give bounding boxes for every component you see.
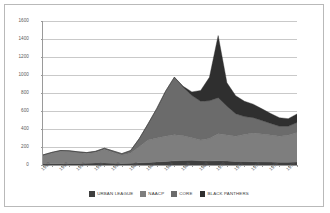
x-tick-mark bbox=[87, 165, 88, 167]
y-tick-label: 1600 bbox=[0, 19, 29, 24]
x-tick-mark bbox=[52, 165, 53, 167]
x-tick-mark bbox=[244, 165, 245, 167]
x-tick-mark bbox=[139, 165, 140, 167]
legend-swatch-icon bbox=[89, 191, 95, 197]
y-tick-label: 0 bbox=[0, 163, 29, 168]
x-tick-mark bbox=[174, 165, 175, 167]
legend-swatch-icon bbox=[140, 191, 146, 197]
x-tick-mark bbox=[227, 165, 228, 167]
x-tick-mark bbox=[157, 165, 158, 167]
x-tick-mark bbox=[122, 165, 123, 167]
plot-area bbox=[42, 21, 297, 166]
chart-legend: URBAN LEAGUENAACPCOREBLACK PANTHERS bbox=[42, 189, 296, 199]
y-tick-label: 800 bbox=[0, 91, 29, 96]
legend-label: NAACP bbox=[148, 192, 164, 196]
x-tick-mark bbox=[69, 165, 70, 167]
y-tick-label: 1400 bbox=[0, 37, 29, 42]
legend-item[interactable]: URBAN LEAGUE bbox=[89, 191, 133, 197]
legend-label: BLACK PANTHERS bbox=[208, 192, 249, 196]
chart-frame: 02004006008001000120014001600 1950195219… bbox=[4, 4, 324, 207]
legend-label: CORE bbox=[179, 192, 192, 196]
x-tick-mark bbox=[297, 165, 298, 167]
x-tick-mark bbox=[262, 165, 263, 167]
legend-item[interactable]: BLACK PANTHERS bbox=[200, 191, 249, 197]
legend-item[interactable]: CORE bbox=[171, 191, 192, 197]
legend-swatch-icon bbox=[200, 191, 206, 197]
legend-item[interactable]: NAACP bbox=[140, 191, 164, 197]
chart-card: 02004006008001000120014001600 1950195219… bbox=[5, 5, 323, 206]
y-tick-label: 200 bbox=[0, 145, 29, 150]
legend-swatch-icon bbox=[171, 191, 177, 197]
stacked-area-series bbox=[43, 21, 297, 165]
x-tick-mark bbox=[279, 165, 280, 167]
x-tick-mark bbox=[192, 165, 193, 167]
y-tick-label: 600 bbox=[0, 109, 29, 114]
x-tick-mark bbox=[104, 165, 105, 167]
y-tick-label: 1000 bbox=[0, 73, 29, 78]
area-series-naacp bbox=[43, 132, 297, 164]
x-tick-mark bbox=[209, 165, 210, 167]
y-tick-label: 400 bbox=[0, 127, 29, 132]
legend-label: URBAN LEAGUE bbox=[97, 192, 133, 196]
y-tick-label: 1200 bbox=[0, 55, 29, 60]
